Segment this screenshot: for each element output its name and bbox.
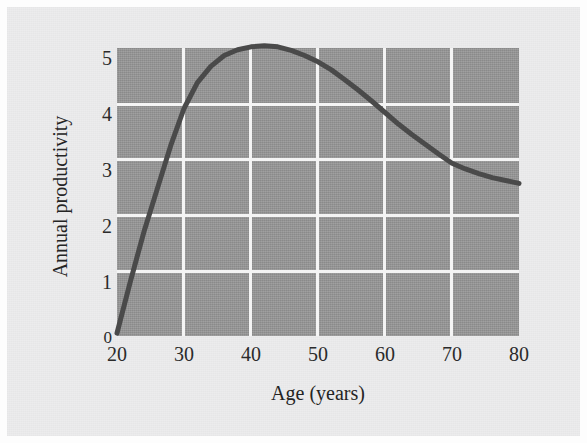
x-tick-30: 30 — [162, 344, 206, 364]
x-tick-70: 70 — [430, 344, 474, 364]
x-axis-ticks: 20 30 40 50 60 70 80 — [0, 344, 587, 374]
productivity-vs-age-chart: 5 4 3 2 1 0 20 30 40 50 60 70 80 Age (ye… — [0, 0, 587, 443]
x-tick-60: 60 — [363, 344, 407, 364]
y-tick-1: 1 — [84, 272, 112, 292]
y-tick-4: 4 — [84, 104, 112, 124]
productivity-curve — [117, 48, 519, 336]
x-tick-40: 40 — [229, 344, 273, 364]
y-tick-5: 5 — [84, 48, 112, 68]
y-tick-3: 3 — [84, 160, 112, 180]
figure-page: 5 4 3 2 1 0 20 30 40 50 60 70 80 Age (ye… — [0, 0, 587, 443]
x-tick-80: 80 — [497, 344, 541, 364]
x-tick-50: 50 — [296, 344, 340, 364]
y-tick-2: 2 — [84, 216, 112, 236]
x-axis-label: Age (years) — [117, 382, 519, 405]
y-axis-label: Annual productivity — [49, 97, 72, 297]
x-tick-20: 20 — [95, 344, 139, 364]
plot-area — [117, 48, 519, 336]
y-axis-ticks: 5 4 3 2 1 0 — [82, 0, 112, 443]
